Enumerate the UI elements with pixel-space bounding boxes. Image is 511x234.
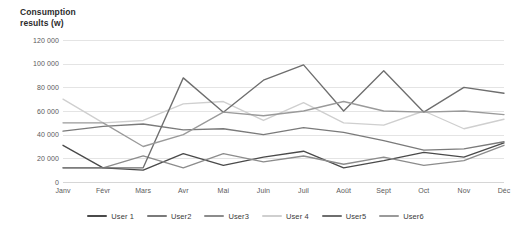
x-axis-tick-label: Févr [96,186,110,195]
x-axis-tick-label: Août [336,186,351,195]
legend-item-label: User5 [346,212,367,221]
x-axis-tick-label: Mars [135,186,151,195]
line-series-user-1 [63,143,504,170]
x-axis-tick-label: Oct [418,186,429,195]
x-axis-tick-label: Avr [178,186,189,195]
legend-item-user-4[interactable]: User 4 [262,212,309,221]
line-series-user6 [63,102,504,147]
legend-swatch-icon [147,215,167,217]
legend-swatch-icon [322,215,342,217]
x-axis-tick-label: Juin [257,186,270,195]
line-series-user5 [63,65,504,168]
x-axis-tick-label: Juil [298,186,309,195]
y-axis-tick-label: 60 000 [13,108,59,115]
legend-item-user-1[interactable]: User 1 [87,212,134,221]
legend-item-user6[interactable]: User6 [379,212,424,221]
chart-legend: User 1User2User3User 4User5User6 [0,208,511,224]
y-axis-tick-label: 80 000 [13,84,59,91]
legend-item-label: User6 [403,212,424,221]
legend-item-label: User 4 [286,212,309,221]
chart-title: Consumption results (w) [20,7,140,29]
plot-area [63,40,504,182]
legend-item-label: User3 [228,212,249,221]
chart-title-line-2: results (w) [20,18,140,29]
series-lines [63,40,504,182]
legend-item-user5[interactable]: User5 [322,212,367,221]
y-axis-tick-label: 40 000 [13,131,59,138]
y-axis: 020 00040 00060 00080 000100 000120 000 [11,40,59,182]
legend-item-user3[interactable]: User3 [204,212,249,221]
legend-swatch-icon [379,215,399,217]
x-axis-tick-label: Mai [218,186,230,195]
x-axis-tick-label: Nov [458,186,471,195]
legend-item-label: User2 [171,212,192,221]
y-axis-tick-label: 20 000 [13,155,59,162]
x-axis: JanvFévrMarsAvrMaiJuinJuilAoûtSeptOctNov… [63,186,504,200]
legend-swatch-icon [204,215,224,217]
legend-swatch-icon [262,215,282,217]
consumption-results-chart: Consumption results (w) 020 00040 00060 … [0,0,511,234]
chart-title-line-1: Consumption [20,7,140,18]
x-axis-tick-label: Janv [55,186,70,195]
y-axis-tick-label: 120 000 [13,37,59,44]
line-series-user3 [63,145,504,167]
y-axis-tick-label: 100 000 [13,60,59,67]
gridline [63,182,504,183]
legend-swatch-icon [87,215,107,217]
x-axis-tick-label: Déc [498,186,511,195]
line-series-user2 [63,124,504,150]
legend-item-user2[interactable]: User2 [147,212,192,221]
legend-item-label: User 1 [111,212,134,221]
y-axis-tick-label: 0 [13,179,59,186]
x-axis-tick-label: Sept [376,186,391,195]
